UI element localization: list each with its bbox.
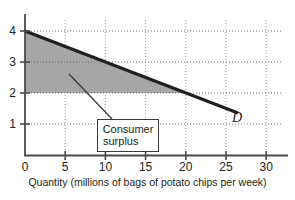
- demand-curve-label: D: [232, 110, 242, 126]
- x-tick-label-30: 30: [254, 160, 278, 174]
- x-axis-title: Quantity (millions of bags of potato chi…: [0, 176, 295, 188]
- consumer-surplus-chart: 4 3 2 1 0 5 10 15 20 25 30 Quantity (mil…: [0, 0, 295, 200]
- callout-text-line-2: surplus: [103, 136, 138, 148]
- x-tick-label-20: 20: [174, 160, 198, 174]
- x-tick-label-0: 0: [13, 160, 37, 174]
- x-tick-label-5: 5: [53, 160, 77, 174]
- x-tick-label-15: 15: [134, 160, 158, 174]
- y-tick-label-1: 1: [0, 117, 16, 131]
- x-tick-label-10: 10: [93, 160, 117, 174]
- x-tick-label-25: 25: [214, 160, 238, 174]
- y-tick-label-3: 3: [0, 55, 16, 69]
- consumer-surplus-callout: Consumer surplus: [97, 119, 159, 152]
- y-tick-label-4: 4: [0, 24, 16, 38]
- callout-text-line-1: Consumer: [103, 124, 154, 136]
- y-tick-label-2: 2: [0, 86, 16, 100]
